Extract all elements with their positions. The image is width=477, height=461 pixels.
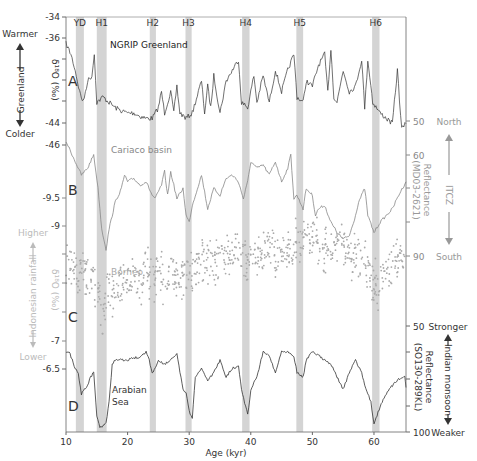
scatter-point — [353, 252, 355, 254]
event-label-h2: H2 — [147, 18, 160, 28]
greenland-colder: Colder — [5, 129, 35, 139]
scatter-point — [223, 259, 225, 261]
scatter-point — [235, 233, 237, 235]
scatter-point — [201, 254, 203, 256]
scatter-point — [99, 298, 101, 300]
scatter-point — [146, 272, 148, 274]
scatter-point — [267, 232, 269, 234]
scatter-point — [309, 239, 311, 241]
scatter-point — [178, 284, 180, 286]
scatter-point — [147, 276, 149, 278]
scatter-point — [277, 265, 279, 267]
panel-letter-a: A — [68, 73, 78, 89]
scatter-point — [264, 257, 266, 259]
arrow-down-icon-head — [445, 238, 453, 245]
x-tick-label: 30 — [183, 437, 195, 447]
scatter-point — [339, 231, 341, 233]
monsoon-label: Indian monsoon — [443, 344, 453, 416]
scatter-point — [250, 254, 252, 256]
event-bar-h5 — [296, 17, 303, 432]
scatter-point — [125, 282, 127, 284]
event-label-h6: H6 — [370, 18, 383, 28]
series-label-cariaco-1: Cariaco basin — [111, 145, 172, 155]
scatter-point — [143, 275, 145, 277]
scatter-point — [291, 257, 293, 259]
scatter-point — [382, 264, 384, 266]
scatter-point — [196, 258, 198, 260]
scatter-point — [337, 238, 339, 240]
scatter-point — [303, 236, 305, 238]
scatter-point — [207, 245, 209, 247]
indo-ylabel: δ¹⁸O (‰) — [50, 269, 60, 311]
scatter-point — [359, 274, 361, 276]
scatter-point — [113, 280, 115, 282]
scatter-point — [157, 260, 159, 262]
scatter-point — [367, 256, 369, 258]
scatter-point — [325, 272, 327, 274]
scatter-point — [149, 271, 151, 273]
scatter-point — [234, 258, 236, 260]
scatter-point — [403, 254, 405, 256]
scatter-point — [396, 260, 398, 262]
x-tick-label: 10 — [60, 437, 72, 447]
scatter-point — [295, 257, 297, 259]
scatter-point — [118, 285, 120, 287]
scatter-point — [80, 263, 82, 265]
scatter-point — [85, 268, 87, 270]
scatter-point — [81, 268, 83, 270]
scatter-point — [203, 260, 205, 262]
scatter-point — [160, 273, 162, 275]
scatter-point — [183, 274, 185, 276]
scatter-point — [73, 278, 75, 280]
scatter-point — [225, 273, 227, 275]
scatter-point — [123, 289, 125, 291]
scatter-point — [281, 260, 283, 262]
scatter-point — [272, 229, 274, 231]
scatter-point — [204, 272, 206, 274]
scatter-point — [352, 271, 354, 273]
scatter-point — [356, 257, 358, 259]
scatter-point — [288, 243, 290, 245]
scatter-point — [126, 279, 128, 281]
scatter-point — [258, 266, 260, 268]
scatter-point — [137, 288, 139, 290]
scatter-point — [225, 263, 227, 265]
scatter-point — [358, 243, 360, 245]
scatter-point — [116, 283, 118, 285]
scatter-point — [206, 269, 208, 271]
scatter-point — [401, 260, 403, 262]
x-ticks: 102030405060 — [60, 432, 380, 447]
scatter-point — [255, 257, 257, 259]
scatter-point — [375, 275, 377, 277]
event-label-h3: H3 — [182, 18, 195, 28]
scatter-point — [155, 266, 157, 268]
scatter-point — [188, 279, 190, 281]
scatter-point — [374, 277, 376, 279]
scatter-point — [365, 267, 367, 269]
scatter-point — [274, 254, 276, 256]
itcz-ylabel-2: (MD03-2621) — [411, 160, 421, 219]
scatter-point — [377, 309, 379, 311]
scatter-point — [372, 297, 374, 299]
scatter-point — [162, 303, 164, 305]
scatter-point — [203, 251, 205, 253]
scatter-point — [353, 259, 355, 261]
scatter-point — [374, 291, 376, 293]
scatter-point — [210, 266, 212, 268]
scatter-point — [245, 262, 247, 264]
scatter-point — [312, 222, 314, 224]
scatter-point — [266, 236, 268, 238]
scatter-point — [123, 264, 125, 266]
event-label-yd: YD — [73, 18, 86, 28]
scatter-point — [309, 243, 311, 245]
scatter-point — [92, 270, 94, 272]
scatter-point — [73, 261, 75, 263]
scatter-point — [156, 257, 158, 259]
scatter-point — [242, 252, 244, 254]
scatter-point — [396, 256, 398, 258]
scatter-point — [283, 252, 285, 254]
scatter-point — [373, 270, 375, 272]
scatter-point — [224, 262, 226, 264]
scatter-point — [269, 256, 271, 258]
scatter-point — [143, 262, 145, 264]
